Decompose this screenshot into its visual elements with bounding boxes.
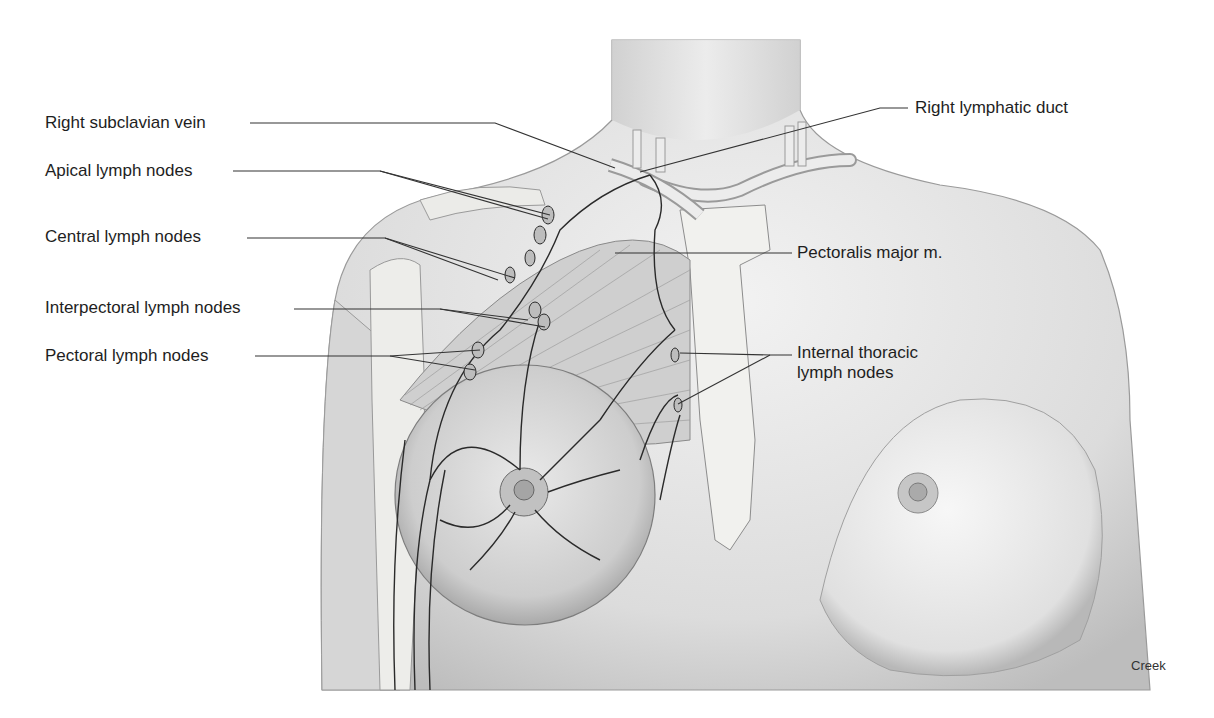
label-internal-thoracic-line1: Internal thoracic <box>797 343 918 363</box>
label-pectoral-lymph-nodes: Pectoral lymph nodes <box>45 346 208 366</box>
label-apical-lymph-nodes: Apical lymph nodes <box>45 161 192 181</box>
label-right-lymphatic-duct: Right lymphatic duct <box>915 98 1068 118</box>
label-central-lymph-nodes: Central lymph nodes <box>45 227 201 247</box>
label-internal-thoracic-line2: lymph nodes <box>797 363 893 383</box>
artist-credit: Creek <box>1131 658 1166 673</box>
label-right-subclavian-vein: Right subclavian vein <box>45 113 206 133</box>
label-interpectoral-lymph-nodes: Interpectoral lymph nodes <box>45 298 241 318</box>
label-pectoralis-major: Pectoralis major m. <box>797 243 942 263</box>
